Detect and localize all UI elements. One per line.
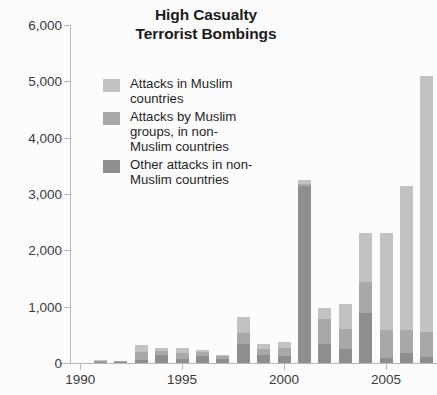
bar-group[interactable] <box>359 233 372 363</box>
bar-segment <box>420 357 433 363</box>
legend-swatch-attacks-in-muslim-countries <box>103 79 120 92</box>
bar-segment <box>380 358 393 363</box>
y-axis-tick-label: 6,000 <box>2 18 62 33</box>
y-axis-tick <box>64 363 71 364</box>
bar-group[interactable] <box>400 186 413 363</box>
bar-segment <box>135 352 148 359</box>
bar-group[interactable] <box>380 233 393 363</box>
legend-item-label: Attacks in Muslimcountries <box>130 76 233 107</box>
bar-group[interactable] <box>339 304 352 363</box>
legend-item-label: Other attacks in non-Muslim countries <box>130 157 252 188</box>
bar-segment <box>196 356 209 363</box>
y-axis-tick-label: 4,000 <box>2 130 62 145</box>
x-axis-tick <box>182 363 183 370</box>
bar-group[interactable] <box>94 360 107 363</box>
bar-group[interactable] <box>420 76 433 363</box>
legend-item[interactable]: Attacks by Muslimgroups, in non-Muslim c… <box>103 109 293 155</box>
x-axis-tick-label: 2005 <box>358 372 414 387</box>
bar-segment <box>318 319 331 344</box>
bar-group[interactable] <box>318 308 331 363</box>
bar-group[interactable] <box>298 180 311 363</box>
bar-segment <box>400 330 413 353</box>
x-axis-tick-label: 1990 <box>52 372 108 387</box>
chart-container: High Casualty Terrorist Bombings 01,0002… <box>0 0 437 395</box>
x-axis-tick-label: 2000 <box>256 372 312 387</box>
bar-group[interactable] <box>216 355 229 363</box>
bar-segment <box>135 360 148 363</box>
bar-group[interactable] <box>257 344 270 363</box>
bar-segment <box>155 355 168 363</box>
bar-segment <box>135 345 148 352</box>
legend-swatch-other-attacks <box>103 160 120 173</box>
x-axis-line <box>60 363 437 364</box>
legend-label-line: groups, in non- <box>130 124 236 139</box>
y-axis-tick-label: 5,000 <box>2 74 62 89</box>
bar-segment <box>420 332 433 357</box>
x-axis-tick <box>80 363 81 370</box>
legend-label-line: Other attacks in non- <box>130 157 252 172</box>
bar-segment <box>339 329 352 349</box>
bar-segment <box>176 359 189 364</box>
y-axis-tick-label: 0 <box>2 356 62 371</box>
chart-title-line-1: High Casualty <box>96 6 316 25</box>
bar-segment <box>318 344 331 363</box>
bar-segment <box>114 362 127 363</box>
y-axis-tick-label: 2,000 <box>2 243 62 258</box>
bar-segment <box>278 348 291 356</box>
legend-label-line: countries <box>130 91 233 106</box>
bar-segment <box>278 356 291 363</box>
bar-segment <box>400 353 413 363</box>
chart-legend: Attacks in MuslimcountriesAttacks by Mus… <box>103 76 293 189</box>
bar-group[interactable] <box>196 350 209 363</box>
bar-segment <box>237 344 250 363</box>
bar-segment <box>359 282 372 314</box>
legend-label-line: Muslim countries <box>130 172 252 187</box>
bar-segment <box>339 304 352 329</box>
bar-group[interactable] <box>114 361 127 363</box>
x-axis-tick <box>284 363 285 370</box>
bar-group[interactable] <box>278 342 291 363</box>
bar-group[interactable] <box>155 348 168 363</box>
bar-group[interactable] <box>237 317 250 363</box>
bar-segment <box>237 333 250 344</box>
bar-segment <box>257 355 270 363</box>
legend-label-line: Muslim countries <box>130 139 236 154</box>
bar-group[interactable] <box>176 348 189 363</box>
x-axis-tick <box>386 363 387 370</box>
bar-segment <box>380 330 393 358</box>
y-axis-tick-label: 1,000 <box>2 299 62 314</box>
legend-item[interactable]: Other attacks in non-Muslim countries <box>103 157 293 188</box>
legend-item-label: Attacks by Muslimgroups, in non-Muslim c… <box>130 109 236 155</box>
bar-segment <box>216 359 229 364</box>
bar-segment <box>339 349 352 363</box>
legend-label-line: Attacks by Muslim <box>130 109 236 124</box>
bar-segment <box>298 186 311 363</box>
legend-swatch-attacks-by-muslim-groups <box>103 112 120 125</box>
bar-segment <box>400 186 413 331</box>
legend-label-line: Attacks in Muslim <box>130 76 233 91</box>
bar-segment <box>94 362 107 363</box>
bar-segment <box>237 317 250 333</box>
bar-segment <box>359 313 372 363</box>
bar-segment <box>380 233 393 330</box>
y-axis-tick-label: 3,000 <box>2 187 62 202</box>
bar-segment <box>318 308 331 319</box>
legend-item[interactable]: Attacks in Muslimcountries <box>103 76 293 107</box>
x-axis-tick-label: 1995 <box>154 372 210 387</box>
bar-segment <box>359 233 372 281</box>
bar-segment <box>420 76 433 332</box>
bar-group[interactable] <box>135 345 148 363</box>
